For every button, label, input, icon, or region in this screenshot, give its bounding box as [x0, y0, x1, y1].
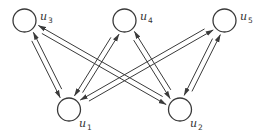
node-circle-u2	[169, 98, 192, 121]
node-circle-u1	[58, 98, 81, 121]
node-label-u5: u	[240, 10, 247, 23]
edge-arrow-u1-to-u3	[33, 32, 61, 89]
edge-arrow-u2-to-u4	[134, 31, 170, 89]
edge-arrow-u2-to-u3	[38, 25, 162, 96]
edge-arrow-u3-to-u2	[42, 33, 166, 104]
node-circle-u5	[213, 9, 236, 32]
node-u2: u2	[169, 98, 204, 132]
graph-diagram: u3u4u5u1u2	[0, 0, 268, 132]
node-subscript-u5: 5	[248, 16, 253, 25]
node-u5: u5	[213, 9, 253, 32]
node-u1: u1	[58, 98, 93, 132]
node-label-u4: u	[140, 10, 147, 23]
node-subscript-u2: 2	[198, 123, 203, 132]
node-u3: u3	[13, 9, 53, 32]
node-subscript-u4: 4	[148, 16, 153, 25]
graph-canvas: u3u4u5u1u2	[0, 0, 268, 132]
node-subscript-u3: 3	[48, 16, 53, 25]
node-u4: u4	[113, 9, 153, 32]
node-label-u3: u	[40, 10, 47, 23]
node-circle-u3	[13, 9, 36, 32]
edge-arrow-u5-to-u1	[80, 29, 204, 100]
node-label-u2: u	[190, 117, 197, 130]
edge-arrow-u5-to-u2	[184, 39, 212, 96]
node-circle-u4	[113, 9, 136, 32]
edge-arrow-u3-to-u1	[32, 41, 60, 98]
edges-layer	[32, 25, 221, 104]
edge-arrow-u4-to-u2	[134, 40, 170, 98]
node-label-u1: u	[79, 117, 86, 130]
node-subscript-u1: 1	[87, 123, 92, 132]
edge-arrow-u1-to-u4	[83, 34, 119, 92]
edge-arrow-u4-to-u1	[74, 37, 110, 95]
edge-arrow-u2-to-u5	[192, 35, 220, 92]
